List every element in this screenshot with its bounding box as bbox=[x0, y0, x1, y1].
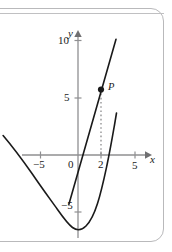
y-tick-label-5: 5 bbox=[64, 92, 70, 103]
y-tick-label-10: 10 bbox=[58, 35, 69, 46]
x-axis-label: x bbox=[150, 154, 155, 165]
graph-canvas bbox=[0, 0, 172, 252]
y-axis-arrowhead bbox=[74, 30, 81, 37]
x-tick-label-0: 0 bbox=[68, 159, 74, 170]
x-tick-label-neg5: −5 bbox=[33, 159, 45, 170]
parabola-curve bbox=[3, 113, 116, 230]
point-p-label: P bbox=[108, 82, 114, 93]
x-tick-label-5: 5 bbox=[132, 160, 138, 171]
y-tick-label-neg5: −5 bbox=[61, 200, 73, 211]
straight-line bbox=[69, 39, 116, 204]
point-p-marker bbox=[98, 86, 104, 92]
figure-root: y x 10 5 −5 −5 0 2 5 P bbox=[0, 0, 172, 252]
x-tick-label-2: 2 bbox=[98, 159, 104, 170]
